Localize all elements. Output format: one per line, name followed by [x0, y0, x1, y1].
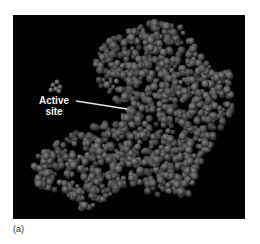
active-site-label: Active site — [37, 95, 71, 117]
substrate-molecule — [48, 79, 62, 93]
active-site-label-line2: site — [37, 106, 71, 117]
protein-space-filling-model — [13, 15, 245, 219]
active-site-label-line1: Active — [37, 95, 71, 106]
protein-image-panel: Active site — [13, 15, 245, 219]
figure-caption: (a) — [13, 224, 24, 234]
